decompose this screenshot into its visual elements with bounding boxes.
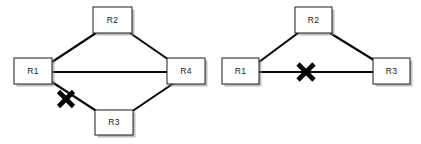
node-r2[interactable]: R2: [295, 7, 335, 36]
link-r2-r3: [330, 33, 377, 62]
link-r1-r2: [259, 33, 298, 62]
node-r2-label: R2: [308, 15, 319, 25]
node-r3-label: R3: [386, 66, 397, 76]
node-r1[interactable]: R1: [222, 58, 262, 87]
right-diagram: R1 R2 R3: [0, 0, 421, 144]
right-link-group: [259, 33, 377, 72]
figure-canvas: R1 R2 R4 R3: [0, 0, 421, 144]
node-r3[interactable]: R3: [373, 58, 413, 87]
node-r1-label: R1: [235, 66, 246, 76]
